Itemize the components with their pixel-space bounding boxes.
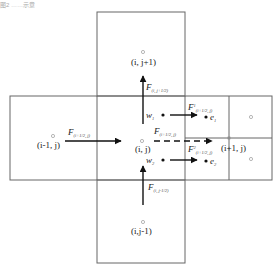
label-center-cell: (i, j) [135, 144, 151, 154]
label-flux-top: F(i, j+1/2) [145, 82, 169, 94]
label-w1: w1 [146, 110, 154, 121]
label-e1: e1 [210, 112, 216, 123]
label-flux-bottom: F(i, j-1/2) [147, 182, 169, 194]
label-top-cell: (i, j+1) [131, 57, 156, 67]
cell-top-box [97, 12, 185, 96]
node-top [141, 50, 144, 53]
flux-arrows [65, 76, 212, 205]
label-w2: w2 [146, 155, 155, 166]
label-right-cell: (i+1, j) [221, 143, 246, 153]
label-e2: e2 [210, 156, 217, 167]
node-center [140, 139, 143, 142]
node-left [51, 134, 54, 137]
point-e2 [204, 159, 207, 162]
label-flux-left: F(i+1/2, j) [67, 127, 91, 139]
finite-volume-stencil-diagram: (i, j+1) (i-1, j) (i, j) (i+1, j) (i,j-1… [0, 0, 276, 269]
node-refined-upper [249, 115, 252, 118]
label-left-cell: (i-1, j) [37, 140, 60, 150]
point-w2 [161, 158, 164, 161]
point-w1 [161, 113, 164, 116]
node-refined-lower [249, 157, 252, 160]
cell-bottom-box [97, 180, 185, 263]
label-bottom-cell: (i,j-1) [131, 226, 152, 236]
label-flux-upper: F1(i+1/2, j) [187, 102, 213, 114]
node-bottom [141, 220, 144, 223]
label-flux-lower: F2(i+1/2, j) [187, 144, 213, 156]
point-e1 [204, 115, 207, 118]
label-flux-center: F(i+1/2, j) [153, 126, 177, 138]
